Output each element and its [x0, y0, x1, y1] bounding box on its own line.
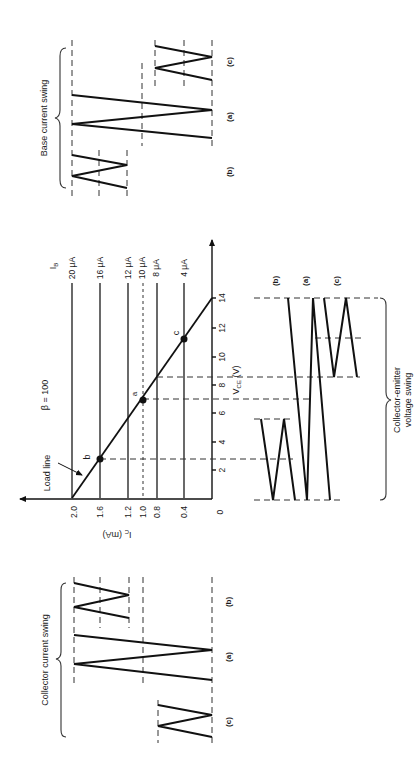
ib-label-20: 20 μA	[67, 256, 77, 279]
base-swing-label: Base current swing	[39, 80, 49, 157]
operating-point-c	[181, 336, 188, 343]
ce-swing-waveform-b	[261, 419, 295, 500]
beta-label: β = 100	[40, 380, 50, 410]
collector-case-a-label: (a)	[224, 652, 233, 662]
load-line-label: Load line	[42, 455, 52, 492]
vce-tick: 12	[217, 323, 227, 333]
point-a-label: a	[130, 391, 139, 396]
ib-label-16: 16 μA	[95, 256, 105, 279]
ic-tick: 1.2	[123, 506, 133, 518]
collector-swing-label: Collector current swing	[40, 614, 50, 706]
load-line-chart: IB 20 μA 16 μA 12 μA 10 μA 8 μA 4 μA 2.0…	[20, 240, 378, 540]
vce-tick: 14	[217, 293, 227, 303]
vce-tick: 10	[217, 352, 227, 362]
ce-swing-brace	[380, 298, 391, 500]
ic-tick: 0.4	[179, 506, 189, 518]
ib-label-10: 10 μA	[137, 256, 147, 279]
base-swing-waveform-c	[155, 46, 212, 80]
base-swing-waveform-a	[72, 95, 212, 138]
operating-point-b	[97, 456, 104, 463]
ce-case-a-label: (a)	[301, 276, 310, 286]
ce-swing-waveform-c	[324, 298, 357, 377]
ib-label-8: 8 μA	[151, 259, 161, 277]
collector-swing-waveform-b	[74, 583, 129, 618]
vce-axis-label: VCE (V)	[231, 366, 242, 395]
transistor-load-line-figure: Base current swing (c) (a) (b) IB 20 μA …	[0, 0, 415, 770]
collector-case-c-label: (c)	[224, 717, 233, 727]
collector-current-swing-panel: Collector current swing (b) (a) (c)	[40, 577, 233, 743]
ib-label-12: 12 μA	[123, 256, 133, 279]
ic-tick: 0	[215, 509, 225, 514]
ce-swing-label-line2: voltage swing	[403, 373, 413, 428]
collector-case-b-label: (b)	[224, 597, 233, 608]
operating-point-a	[140, 397, 147, 404]
vce-tick: 4	[217, 439, 227, 444]
point-c-label: c	[171, 330, 181, 335]
collector-swing-waveform-a	[74, 635, 212, 680]
ce-swing-label-line1: Collector-emitter	[392, 367, 402, 433]
vce-tick: 2	[217, 467, 227, 472]
ib-header: IB	[48, 263, 59, 270]
ic-tick-labels: 2.0 1.6 1.2 1.0 0.8 0.4 0	[69, 506, 225, 518]
base-case-a-label: (a)	[225, 112, 234, 122]
ce-case-c-label: (c)	[332, 276, 341, 286]
point-b-label: b	[82, 454, 92, 459]
ic-tick: 1.6	[95, 506, 105, 518]
ib-label-4: 4 μA	[179, 259, 189, 277]
base-current-swing-panel: Base current swing (c) (a) (b)	[39, 40, 234, 196]
base-case-b-label: (b)	[225, 167, 234, 178]
ic-tick: 1.0	[138, 506, 148, 518]
vce-tick: 6	[217, 410, 227, 415]
ce-case-b-label: (b)	[271, 276, 280, 287]
collector-swing-waveform-c	[158, 705, 212, 737]
base-swing-brace	[55, 48, 66, 188]
vce-tick-labels: 14 12 10 8 6 4 2	[217, 293, 227, 472]
ce-voltage-swing-panel: (b) (a) (c) Collector-emitter voltage sw…	[261, 276, 413, 500]
load-line-pointer-arrow	[58, 463, 82, 475]
ic-tick: 2.0	[69, 506, 79, 518]
collector-swing-brace	[56, 583, 66, 737]
ic-axis-label: IC (mA)	[103, 529, 132, 540]
ic-tick: 0.8	[152, 506, 162, 518]
base-case-c-label: (c)	[225, 57, 234, 67]
vce-tick: 8	[217, 382, 227, 387]
